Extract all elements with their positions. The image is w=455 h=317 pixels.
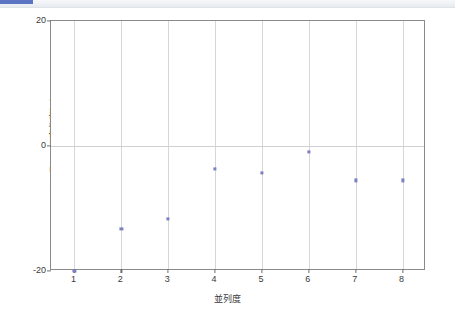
- progress-indicator: [0, 0, 33, 4]
- x-tick-label: 1: [71, 274, 76, 284]
- zero-gridline: [51, 146, 424, 147]
- x-tick-mark: [355, 269, 356, 273]
- x-tick-mark: [402, 269, 403, 273]
- data-point: [73, 269, 76, 272]
- data-point: [213, 168, 216, 171]
- x-tick-label: 3: [165, 274, 170, 284]
- x-gridline: [215, 21, 216, 269]
- x-gridline: [403, 21, 404, 269]
- x-tick-label: 5: [258, 274, 263, 284]
- plot-area: [50, 20, 425, 270]
- x-tick-label: 8: [399, 274, 404, 284]
- x-tick-mark: [214, 269, 215, 273]
- x-axis-label: 並列度: [0, 292, 455, 305]
- x-gridline: [356, 21, 357, 269]
- y-tick-label: -20: [33, 265, 46, 275]
- data-point: [120, 228, 123, 231]
- x-tick-mark: [261, 269, 262, 273]
- x-tick-mark: [308, 269, 309, 273]
- x-gridline: [309, 21, 310, 269]
- y-tick-mark: [47, 145, 51, 146]
- x-gridline: [74, 21, 75, 269]
- y-tick-label: 20: [36, 15, 46, 25]
- y-axis-label-wrapper: レイテンシの変化率[%]: [0, 20, 26, 270]
- x-tick-label: 6: [305, 274, 310, 284]
- x-gridline: [262, 21, 263, 269]
- chart-figure: レイテンシの変化率[%] 並列度 12345678-20020: [0, 8, 455, 317]
- y-tick-mark: [47, 270, 51, 271]
- x-tick-mark: [168, 269, 169, 273]
- data-point: [307, 150, 310, 153]
- data-point: [354, 179, 357, 182]
- browser-chrome-strip: [0, 0, 455, 7]
- data-point: [401, 179, 404, 182]
- x-gridline: [121, 21, 122, 269]
- x-gridline: [168, 21, 169, 269]
- x-tick-mark: [121, 269, 122, 273]
- x-tick-label: 7: [352, 274, 357, 284]
- x-tick-label: 4: [212, 274, 217, 284]
- data-point: [167, 218, 170, 221]
- y-tick-label: 0: [41, 140, 46, 150]
- y-tick-mark: [47, 20, 51, 21]
- x-tick-label: 2: [118, 274, 123, 284]
- data-point: [260, 171, 263, 174]
